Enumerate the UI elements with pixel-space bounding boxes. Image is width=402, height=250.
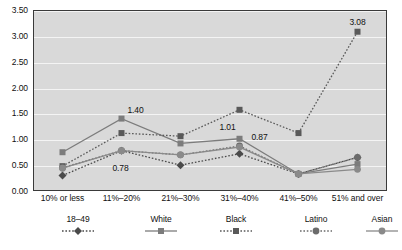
legend-swatch-diamond-icon [36,225,120,237]
x-axis-tick-label: 31%–40% [220,193,258,203]
legend-swatch-circle-icon [340,225,402,237]
data-point-marker [178,133,184,139]
series-asian [59,144,361,178]
data-point-label: 0.78 [112,163,128,173]
data-point-label: 0.87 [251,132,267,142]
y-axis-tick-label: 0.00 [12,186,28,196]
data-point-marker [237,136,243,142]
data-point-marker [296,130,302,136]
x-axis-tick-label: 51% and over [332,193,383,203]
series-line [63,119,358,174]
data-point-marker [119,130,125,136]
legend-item-label: Asian [340,214,402,225]
data-point-marker [354,154,361,161]
y-axis-tick-label: 1.50 [12,108,28,118]
y-axis-tick-label: 2.00 [12,83,28,93]
data-point-marker [295,171,302,178]
data-point-marker [236,150,244,158]
y-axis-tick-label: 1.00 [12,134,28,144]
series-black [60,29,361,169]
x-axis-tick-label: 41%–50% [279,193,317,203]
data-point-marker [355,29,361,35]
legend-item-label: 18–49 [36,214,120,225]
legend-item-label: Black [194,214,278,225]
x-axis-tick-label: 21%–30% [161,193,199,203]
data-point-marker [236,144,243,151]
legend-item-white[interactable]: White [119,214,203,237]
x-axis: 10% or less11%–20%21%–30%31%–40%41%–50%5… [33,193,387,207]
legend-swatch-square-icon [119,225,203,237]
legend-item-label: White [119,214,203,225]
data-point-marker [177,151,184,158]
series-white [60,116,361,177]
data-point-marker [59,165,66,172]
data-point-marker [177,161,185,169]
data-point-label: 3.08 [349,17,365,27]
legend-item-black[interactable]: Black [194,214,278,237]
series-18-49 [59,147,362,180]
data-point-marker [178,140,184,146]
series-line [63,32,358,166]
chart-legend: 18–49WhiteBlackLatinoAsian [33,214,387,244]
series-layer [33,10,387,191]
x-axis-tick-label: 10% or less [41,193,84,203]
y-axis: 0.000.501.001.502.002.503.003.50 [0,10,31,191]
data-point-marker [60,149,66,155]
data-point-label: 1.40 [127,105,143,115]
legend-swatch-square-icon [194,225,278,237]
x-axis-tick-label: 11%–20% [103,193,140,203]
data-point-marker [119,116,125,122]
data-point-marker [118,147,125,154]
y-axis-tick-label: 3.50 [12,5,28,15]
legend-item-asian[interactable]: Asian [340,214,402,237]
y-axis-tick-label: 2.50 [12,57,28,67]
data-point-marker [354,166,361,173]
y-axis-tick-label: 3.00 [12,31,28,41]
data-point-label: 1.01 [219,122,235,132]
data-point-marker [59,171,67,179]
y-axis-tick-label: 0.50 [12,160,28,170]
legend-item-18-49[interactable]: 18–49 [36,214,120,237]
data-point-marker [237,107,243,113]
